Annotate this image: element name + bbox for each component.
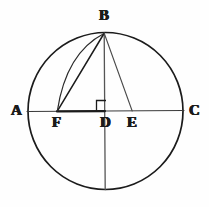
vertex-label-b: B [99,8,109,23]
geometry-figure: B A C F D E [0,0,209,207]
geometry-drawing-canvas [0,0,209,207]
vertex-label-e: E [127,115,137,130]
vertex-label-f: F [52,115,61,130]
vertex-label-a: A [11,103,22,118]
vertex-label-c: C [189,103,200,118]
chord-BE [104,34,132,112]
vertex-label-d: D [100,115,111,130]
